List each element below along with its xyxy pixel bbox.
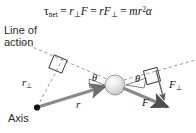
equation-equals-1: =	[58, 5, 70, 17]
f-perpendicular-label-subscript: ⊥	[176, 84, 182, 92]
theta-label-left-text: θ	[92, 72, 97, 83]
r-label-var: r	[76, 98, 80, 110]
r-perpendicular-label-subscript: ⊥	[26, 82, 32, 90]
line-of-action-label-line2: action	[4, 36, 37, 48]
line-of-action-label: Line of action	[4, 24, 37, 49]
equation-term3-m: m	[129, 5, 137, 17]
equation-term1-force: F	[81, 5, 88, 17]
equation-term3-alpha: α	[146, 5, 152, 17]
f-label-var: F	[142, 96, 149, 108]
diagram-canvas	[0, 0, 196, 133]
equation-equals-2: =	[88, 5, 100, 17]
theta-label-right-text: θ	[135, 73, 140, 84]
f-perpendicular-label-var: F	[169, 78, 176, 90]
r-label: r	[76, 98, 80, 110]
theta-label-right: θ	[135, 73, 140, 85]
f-label: F	[142, 96, 149, 108]
r-perpendicular-label: r⊥	[22, 76, 32, 90]
axis-pivot-dot	[34, 104, 40, 110]
equation-term1-perp: ⊥	[74, 10, 81, 19]
f-perpendicular-label: F⊥	[169, 78, 182, 92]
torque-equation: τnet=r⊥F=rF⊥=mr2α	[0, 5, 196, 20]
f-perpendicular-arrow	[156, 70, 164, 100]
axis-label: Axis	[8, 112, 29, 124]
equation-term2-perp: ⊥	[111, 10, 118, 19]
equation-equals-3: =	[118, 5, 130, 17]
axis-label-text: Axis	[8, 112, 29, 124]
equation-term2-force: F	[104, 5, 111, 17]
line-of-action-dashed	[23, 43, 196, 80]
theta-label-left: θ	[92, 72, 97, 84]
torque-diagram-figure: τnet=r⊥F=rF⊥=mr2α Line of action Axis r⊥…	[0, 0, 196, 133]
point-mass-sphere	[105, 75, 125, 95]
r-vector-arrow	[38, 86, 106, 107]
line-of-action-label-line1: Line of	[4, 24, 37, 36]
equation-tau-subscript: net	[49, 11, 58, 19]
